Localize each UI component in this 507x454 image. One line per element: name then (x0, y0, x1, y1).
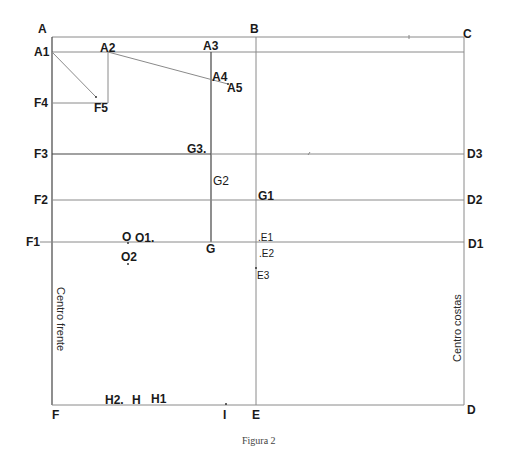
label-f4: F4 (34, 96, 48, 110)
label-d3: D3 (467, 147, 483, 161)
label-o: O (122, 230, 131, 244)
label-a: A (38, 22, 47, 36)
label-h: H (132, 393, 141, 407)
label-e1: .E1 (258, 232, 273, 243)
label-a1: A1 (34, 45, 50, 59)
label-e: E (252, 408, 260, 422)
label-e3: E3 (257, 270, 270, 281)
label-o2: O2 (121, 250, 137, 264)
label-i: I (223, 408, 226, 422)
point-dot (255, 267, 257, 269)
figure-caption: Figura 2 (242, 435, 276, 446)
point-dot (225, 403, 227, 405)
label-o1: O1. (135, 231, 154, 245)
label-h1: H1 (151, 392, 167, 406)
label-a5: A5 (227, 81, 243, 95)
label-c: C (463, 27, 472, 41)
label-f3: F3 (34, 147, 48, 161)
label-h2: H2. (105, 393, 124, 407)
label-centro-frente: Centro frente (55, 287, 67, 351)
label-a3: A3 (203, 39, 219, 53)
pattern-diagram: A A1 A2 A3 A4 A5 B C F4 F5 F3 G3. G2 F2 … (0, 0, 507, 454)
label-g2: G2 (213, 174, 229, 188)
label-g3: G3. (187, 142, 206, 156)
label-a4: A4 (212, 70, 228, 84)
label-d: D (467, 403, 476, 417)
label-e2: .E2 (259, 248, 274, 259)
label-f: F (52, 408, 59, 422)
line-a2-a5 (108, 52, 228, 84)
label-b: B (250, 22, 259, 36)
line-a1-f5 (52, 52, 96, 97)
label-d2: D2 (467, 193, 483, 207)
label-f5: F5 (94, 101, 108, 115)
label-f1: F1 (26, 235, 40, 249)
label-g: G (206, 242, 215, 256)
label-a2: A2 (100, 41, 116, 55)
label-d1: D1 (468, 237, 484, 251)
label-g1: G1 (258, 189, 274, 203)
label-centro-costas: Centro costas (451, 294, 463, 362)
label-f2: F2 (34, 193, 48, 207)
point-dot (95, 96, 97, 98)
